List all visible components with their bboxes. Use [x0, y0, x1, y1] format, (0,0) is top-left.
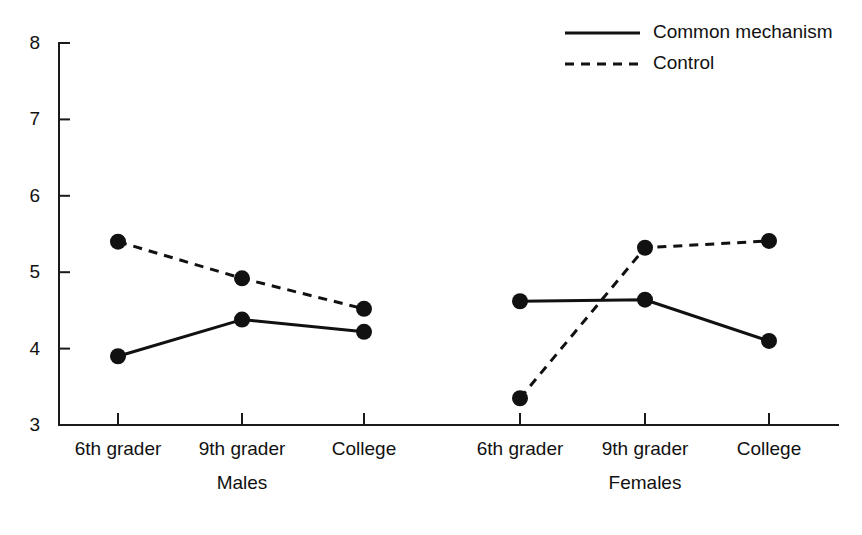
x-tick-label-females-0: 6th grader	[477, 438, 564, 459]
x-tick-label-males-0: 6th grader	[75, 438, 162, 459]
data-point-females-common-mechanism-0	[512, 293, 528, 309]
data-point-males-control-1	[234, 270, 250, 286]
line-chart: 345678 6th grader9th graderCollege6th gr…	[0, 0, 862, 535]
data-series-layer	[110, 233, 777, 406]
group-label-females: Females	[609, 472, 682, 493]
y-tick-label-7: 7	[29, 108, 40, 129]
x-tick-label-males-2: College	[332, 438, 396, 459]
chart-root: 345678 6th grader9th graderCollege6th gr…	[0, 0, 862, 535]
group-label-males: Males	[217, 472, 268, 493]
data-point-males-common-mechanism-2	[356, 324, 372, 340]
legend-label-control: Control	[653, 52, 714, 73]
data-point-males-control-0	[110, 234, 126, 250]
series-line-females-control	[520, 241, 769, 398]
data-point-males-common-mechanism-0	[110, 348, 126, 364]
data-point-females-control-0	[512, 390, 528, 406]
data-point-females-common-mechanism-1	[637, 292, 653, 308]
y-tick-label-4: 4	[29, 338, 40, 359]
x-axis: 6th grader9th graderCollege6th grader9th…	[59, 413, 838, 493]
y-tick-label-3: 3	[29, 414, 40, 435]
y-tick-label-8: 8	[29, 32, 40, 53]
x-tick-label-group: 6th grader9th graderCollege6th grader9th…	[75, 438, 802, 459]
data-point-males-control-2	[356, 301, 372, 317]
y-tick-label-group: 345678	[29, 32, 40, 435]
group-label-group: MalesFemales	[217, 472, 682, 493]
y-axis: 345678	[29, 32, 70, 435]
y-tick-label-6: 6	[29, 185, 40, 206]
x-tick-group	[118, 413, 769, 425]
x-tick-label-males-1: 9th grader	[199, 438, 286, 459]
x-tick-label-females-2: College	[737, 438, 801, 459]
chart-legend: Common mechanismControl	[565, 21, 833, 73]
data-point-females-control-2	[761, 233, 777, 249]
y-tick-group	[59, 43, 70, 349]
data-point-females-control-1	[637, 240, 653, 256]
data-point-females-common-mechanism-2	[761, 333, 777, 349]
y-tick-label-5: 5	[29, 261, 40, 282]
x-tick-label-females-1: 9th grader	[602, 438, 689, 459]
legend-label-common-mechanism: Common mechanism	[653, 21, 833, 42]
data-point-males-common-mechanism-1	[234, 312, 250, 328]
